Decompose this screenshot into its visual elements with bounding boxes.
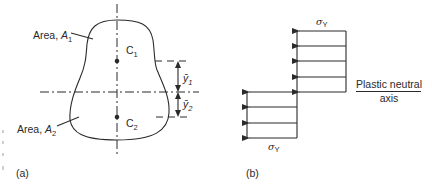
centroid-c1-label: C1 [126, 44, 138, 59]
ybar1-label: ȳ1 [182, 72, 192, 87]
area-a2-label: Area, A2 [17, 123, 56, 138]
plastic-neutral-axis-label-line2: axis [380, 92, 399, 104]
cross-section-outline [70, 20, 169, 140]
plastic-neutral-axis-label-line1: Plastic neutral [356, 78, 422, 90]
edge-artifacts [2, 130, 4, 170]
panel-b-label: (b) [246, 167, 259, 179]
area-a1-label: Area, A1 [33, 29, 72, 44]
ybar2-label: ȳ2 [182, 98, 193, 113]
figure-b: σY σY Plastic neutral axis (b) [246, 16, 422, 179]
ybar1-dimension [175, 61, 181, 92]
plastic-bending-figure: C1 C2 Area, A1 Area, A2 ȳ1 ȳ2 (a) [0, 0, 432, 190]
panel-a-label: (a) [16, 167, 29, 179]
area-a2-leader [57, 117, 79, 126]
centroid-c1-dot [115, 59, 120, 64]
stress-top-label: σY [316, 16, 328, 29]
centroid-c2-dot [115, 115, 120, 120]
figure-a: C1 C2 Area, A1 Area, A2 ȳ1 ȳ2 (a) [16, 4, 199, 179]
upper-stress-arrows [299, 31, 346, 92]
ybar2-dimension [175, 92, 181, 117]
centroid-c2-label: C2 [126, 117, 138, 132]
lower-stress-arrows [249, 92, 297, 138]
stress-bottom-label: σY [268, 141, 280, 154]
